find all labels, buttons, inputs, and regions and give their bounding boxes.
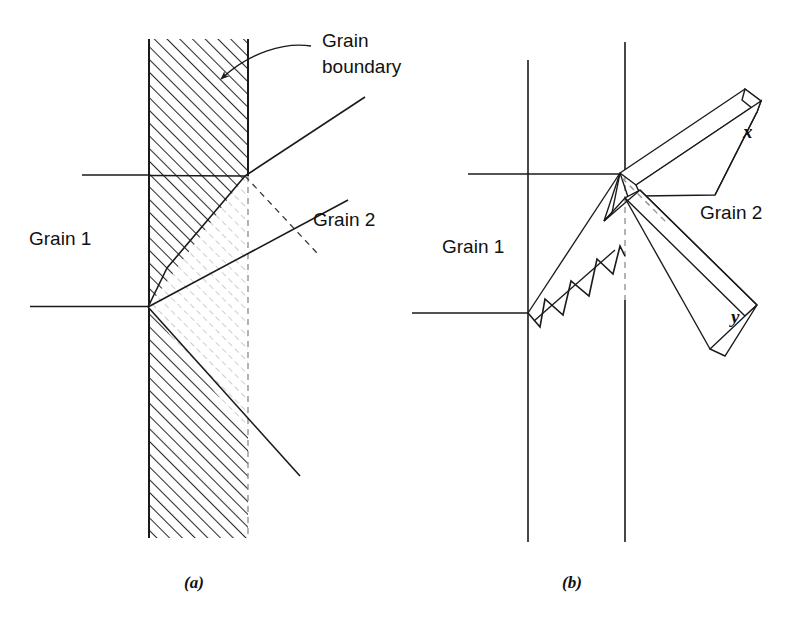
- panel-a-grain1-label: Grain 1: [29, 228, 91, 249]
- grain-boundary-label-line1: Grain: [322, 30, 368, 51]
- panel-b-group: Grain 1 Grain 2 x y (b): [412, 42, 762, 592]
- lamella-y-label: y: [729, 306, 740, 327]
- grain-boundary-label-line2: boundary: [322, 56, 402, 77]
- lamella-x-label: x: [742, 121, 753, 142]
- slip-trace-upper-grain2: [245, 97, 365, 176]
- panel-b-grain2-label: Grain 2: [700, 202, 762, 223]
- upper-reference-line-through-band: [149, 176, 245, 177]
- panel-b-caption: (b): [562, 573, 582, 592]
- slip-lamella-x: [620, 89, 761, 197]
- zigzag-slip-steps: [528, 246, 625, 327]
- panel-a-caption: (a): [184, 573, 204, 592]
- panel-a-group: Grain boundary Grain 1 Grain 2 (a): [29, 30, 402, 592]
- zigzag-envelope-line: [528, 173, 620, 313]
- figure-root: Grain boundary Grain 1 Grain 2 (a): [0, 0, 785, 624]
- displacement-dashed-trace: [245, 176, 317, 253]
- grain-boundary-figure: Grain boundary Grain 1 Grain 2 (a): [0, 0, 785, 624]
- panel-b-grain1-label: Grain 1: [442, 236, 504, 257]
- lamella-x-front-face: [636, 101, 761, 196]
- panel-a-grain2-label: Grain 2: [313, 209, 375, 230]
